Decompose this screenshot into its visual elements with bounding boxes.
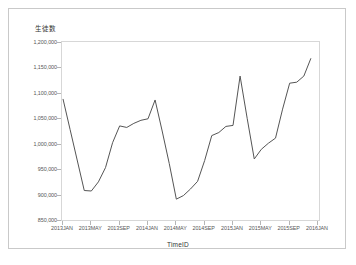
y-axis-tick-label: 900,000 — [38, 192, 57, 198]
y-axis-tick-label: 1,000,000 — [33, 141, 57, 147]
x-axis-tick-label: 2015JAN — [221, 225, 243, 231]
x-axis-tick-label: 2013SEP — [107, 225, 129, 231]
x-axis-tick-label: 2014JAN — [136, 225, 158, 231]
y-axis-tick-label: 950,000 — [38, 166, 57, 172]
x-axis-tick-label: 2014SEP — [192, 225, 214, 231]
y-axis-title: 生徒数 — [35, 23, 57, 33]
line-series-path — [63, 58, 311, 199]
x-axis-title: TimeID — [9, 241, 347, 248]
plot-area — [61, 41, 320, 221]
x-axis-tick-label: 2014MAY — [164, 225, 187, 231]
y-axis-tick-label: 1,100,000 — [33, 90, 57, 96]
x-axis-tick-label: 2015SEP — [277, 225, 299, 231]
line-series-svg — [62, 42, 319, 220]
x-axis-tick-labels: 2013JAN2013MAY2013SEP2014JAN2014MAY2014S… — [9, 225, 347, 237]
y-axis-tick-label: 850,000 — [38, 217, 57, 223]
y-axis-tick-label: 1,150,000 — [33, 64, 57, 70]
y-axis-tick-labels: 850,000900,000950,0001,000,0001,050,0001… — [9, 41, 57, 221]
x-axis-tick-label: 2013JAN — [51, 225, 73, 231]
x-axis-tick-label: 2016JAN — [306, 225, 328, 231]
x-axis-tick-label: 2013MAY — [79, 225, 102, 231]
y-axis-tick-label: 1,200,000 — [33, 39, 57, 45]
x-axis-tick-label: 2015MAY — [249, 225, 272, 231]
chart-frame: 生徒数 850,000900,000950,0001,000,0001,050,… — [8, 8, 346, 249]
y-axis-tick-label: 1,050,000 — [33, 115, 57, 121]
